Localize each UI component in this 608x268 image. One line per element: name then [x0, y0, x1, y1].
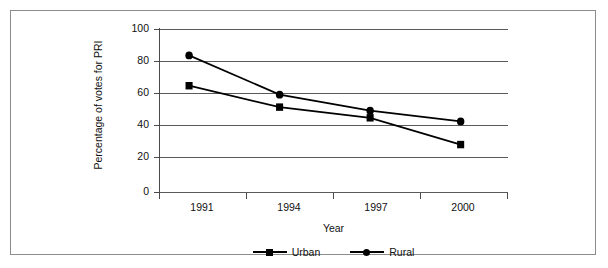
- x-tick-label-1997: 1997: [346, 201, 406, 213]
- plot-area: [159, 29, 508, 193]
- chart-legend: Urban Rural: [159, 243, 508, 261]
- y-tick-label-80: 80: [123, 55, 149, 66]
- legend-entry-urban: Urban: [253, 246, 321, 258]
- y-tick-mark-60: [154, 93, 159, 94]
- y-tick-label-20: 20: [123, 151, 149, 162]
- circle-marker-icon: [350, 246, 384, 258]
- x-tick-label-2000: 2000: [433, 201, 493, 213]
- y-tick-mark-20: [154, 157, 159, 158]
- y-tick-label-40: 40: [123, 119, 149, 130]
- y-tick-mark-80: [154, 61, 159, 62]
- legend-label-rural: Rural: [389, 246, 414, 258]
- gridline-80: [159, 61, 508, 62]
- gridline-60: [159, 93, 508, 94]
- y-tick-label-60: 60: [123, 87, 149, 98]
- gridline-40: [159, 125, 508, 126]
- y-axis-title: Percentage of votes for PRI: [92, 15, 104, 195]
- gridline-20: [159, 157, 508, 158]
- y-tick-mark-100: [154, 29, 159, 30]
- y-tick-label-0: 0: [123, 186, 149, 197]
- y-tick-mark-40: [154, 125, 159, 126]
- x-tick-label-1994: 1994: [259, 201, 319, 213]
- gridline-100: [159, 29, 508, 30]
- square-marker-icon: [253, 246, 287, 258]
- x-axis-title: Year: [159, 222, 508, 234]
- y-axis-line: [159, 28, 160, 195]
- x-tick-mark-4: [507, 193, 508, 199]
- x-tick-mark-2: [333, 193, 334, 199]
- legend-entry-rural: Rural: [350, 246, 414, 258]
- figure: 100 80 60 40 20 0 1991 1994 1997 2000 Ye…: [0, 0, 608, 268]
- x-tick-label-1991: 1991: [172, 201, 232, 213]
- legend-label-urban: Urban: [292, 246, 321, 258]
- x-tick-mark-1: [246, 193, 247, 199]
- y-tick-label-100: 100: [123, 23, 149, 34]
- chart-outer-border: 100 80 60 40 20 0 1991 1994 1997 2000 Ye…: [10, 10, 596, 255]
- x-tick-mark-3: [420, 193, 421, 199]
- x-tick-mark-0: [159, 193, 160, 199]
